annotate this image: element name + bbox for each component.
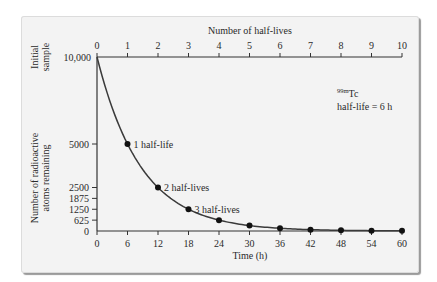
x-tick-label: 36 (275, 238, 285, 249)
data-point (155, 185, 161, 191)
x-tick-label: 54 (367, 238, 377, 249)
annotation-label: 2 half-lives (164, 182, 209, 193)
top-tick-label: 10 (397, 40, 407, 51)
svg-text:atoms remaining: atoms remaining (40, 145, 51, 212)
x-tick-label: 0 (95, 238, 100, 249)
data-point (338, 227, 344, 233)
data-point (308, 227, 314, 233)
data-point (277, 225, 283, 231)
data-point (369, 228, 375, 234)
y-tick-label: 2500 (69, 182, 89, 193)
annotations: 1 half-life2 half-lives3 half-lives (134, 139, 240, 215)
x-axis-title: Time (h) (233, 250, 268, 262)
y-tick-label: 1250 (69, 204, 89, 215)
top-tick-label: 6 (278, 40, 283, 51)
svg-text:Initial: Initial (29, 45, 40, 69)
y-tick-label: 0 (84, 226, 89, 237)
data-point (399, 228, 405, 234)
x-tick-label: 24 (214, 238, 224, 249)
annotation-label: 1 half-life (134, 139, 174, 150)
top-axis-ticks: 012345678910 (95, 40, 408, 57)
y-tick-label: 625 (74, 215, 89, 226)
isotope-superscript: 99m (337, 87, 349, 94)
top-tick-label: 0 (95, 40, 100, 51)
y-axis-ticks: 0625125018752500500010,000 (64, 52, 98, 237)
top-tick-label: 3 (186, 40, 191, 51)
y-tick-label: 10,000 (64, 52, 92, 63)
isotope-legend: 99mTc half-life = 6 h (337, 87, 392, 112)
x-tick-label: 42 (306, 238, 316, 249)
y-axis-title: Number of radioactive atoms remaining (29, 132, 51, 223)
top-tick-label: 7 (308, 40, 313, 51)
data-point (125, 141, 131, 147)
top-tick-label: 2 (156, 40, 161, 51)
x-axis-ticks: 06121824303642485460 (95, 231, 408, 249)
x-tick-label: 12 (153, 238, 163, 249)
x-tick-label: 30 (245, 238, 255, 249)
x-tick-label: 60 (397, 238, 407, 249)
svg-text:Number of radioactive: Number of radioactive (29, 132, 40, 223)
top-tick-label: 8 (339, 40, 344, 51)
x-tick-label: 48 (336, 238, 346, 249)
isotope-symbol: Tc (349, 88, 359, 99)
x-tick-label: 18 (184, 238, 194, 249)
y-tick-label: 1875 (69, 193, 89, 204)
top-tick-label: 1 (125, 40, 130, 51)
data-point (247, 223, 253, 229)
y-tick-label: 5000 (69, 139, 89, 150)
annotation-label: 3 half-lives (195, 204, 240, 215)
top-tick-label: 5 (247, 40, 252, 51)
half-life-text: half-life = 6 h (337, 101, 392, 112)
initial-sample-label: Initial sample (29, 42, 51, 71)
decay-chart: 012345678910 06121824303642485460 062512… (0, 0, 437, 282)
top-axis-title: Number of half-lives (208, 25, 292, 36)
top-tick-label: 4 (217, 40, 222, 51)
x-tick-label: 6 (125, 238, 130, 249)
top-tick-label: 9 (369, 40, 374, 51)
svg-text:99mTc: 99mTc (337, 87, 359, 99)
data-point (186, 206, 192, 212)
svg-text:sample: sample (40, 42, 51, 71)
data-point (216, 217, 222, 223)
